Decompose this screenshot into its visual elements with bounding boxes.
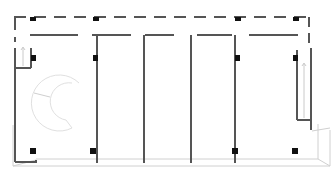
column [292, 148, 298, 154]
columns [30, 17, 299, 154]
column [93, 55, 98, 61]
outer-envelope-dashed [14, 17, 310, 43]
column [293, 17, 299, 21]
stair-curved [31, 75, 79, 131]
floor-plan [0, 0, 336, 189]
column [235, 17, 241, 21]
column [93, 17, 99, 21]
stair-left-straight [21, 47, 25, 66]
stair-right-straight [302, 63, 306, 118]
column [30, 148, 36, 154]
slab-outline [13, 124, 330, 166]
partition-walls [15, 35, 311, 163]
column [293, 55, 298, 61]
column [232, 148, 238, 154]
column [90, 148, 96, 154]
column [31, 55, 36, 61]
column [235, 55, 240, 61]
column [30, 17, 36, 21]
